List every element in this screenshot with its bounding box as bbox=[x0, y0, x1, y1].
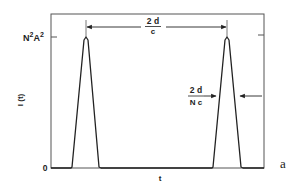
width-numerator: 2 d bbox=[190, 85, 202, 95]
pulse-train-diagram: 2 d c 2 d N c N2A2 0 I (t) t a bbox=[0, 0, 296, 194]
x-axis-label: t bbox=[159, 174, 162, 183]
period-numerator: 2 d bbox=[147, 16, 159, 26]
peak-exp2: 2 bbox=[40, 31, 44, 38]
y-tick-label-zero: 0 bbox=[43, 163, 48, 173]
y-tick-label-peak: N2A2 bbox=[23, 31, 44, 43]
width-denominator: N c bbox=[190, 98, 203, 107]
plot-frame bbox=[51, 14, 264, 168]
intensity-curve bbox=[51, 37, 264, 168]
y-axis-label: I (t) bbox=[16, 93, 25, 106]
period-denominator: c bbox=[151, 27, 156, 36]
panel-label: a bbox=[280, 156, 286, 171]
